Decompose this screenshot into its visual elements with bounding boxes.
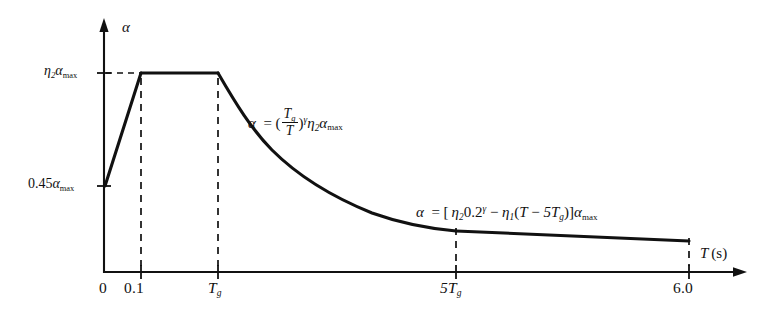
formula1-equals: =: [260, 115, 276, 131]
formula1-open-paren: (: [276, 115, 281, 131]
x-tick-label-6-0: 6.0: [673, 280, 693, 296]
x-tick-label-tg: Tg: [208, 280, 222, 296]
formula2-minus: −: [486, 204, 502, 220]
formula1-exponent-gamma: γ: [304, 115, 308, 125]
response-spectrum-figure: α η2αmax 0.45αmax 0 0.1 Tg 5Tg 6.0 T (s)…: [0, 0, 768, 324]
alpha-max-subscript: max: [63, 71, 77, 80]
annotation-formula-power-decay: α = (TgT)γη2αmax: [248, 108, 343, 141]
formula1-numerator: Tg: [282, 106, 298, 123]
x-axis-unit: (s): [708, 245, 727, 261]
formula2-alpha: α: [416, 204, 424, 220]
five-prefix: 5: [440, 279, 448, 296]
formula2-eta-1: η1: [502, 204, 514, 220]
formula2-exponent-gamma: γ: [482, 204, 486, 214]
formula2-period-T: T: [519, 204, 527, 220]
y-tick-label-plateau: η2αmax: [44, 64, 77, 78]
formula1-alpha: α: [248, 115, 256, 131]
plot-canvas: [0, 0, 768, 324]
x-tick-label-0-1: 0.1: [124, 280, 144, 296]
x-axis-label: T (s): [700, 246, 727, 261]
tg-base: T: [448, 279, 457, 296]
alpha-max-subscript: max: [60, 184, 74, 193]
tg-subscript: g: [217, 287, 222, 298]
alpha-symbol: α: [53, 176, 60, 191]
formula2-max-subscript: max: [582, 212, 598, 222]
eta-2-symbol: η2: [44, 63, 55, 78]
formula1-close-paren: ): [299, 115, 304, 131]
y-tick-label-origin: 0.45αmax: [28, 177, 74, 191]
annotation-formula-linear-decay: α = [ η20.2γ − η1(T − 5Tg)]αmax: [416, 205, 597, 220]
curve-linear-decay-segment: [456, 231, 689, 241]
alpha-symbol: α: [55, 63, 62, 78]
formula2-five-tg: 5Tg: [544, 204, 565, 220]
formula1-denominator: T: [282, 123, 298, 139]
formula1-eta-2: η2: [307, 115, 319, 131]
formula2-eta-2: η2: [452, 204, 464, 220]
formula2-equals: =: [428, 204, 444, 220]
y-axis: [99, 18, 108, 273]
formula2-constant: 0.2: [464, 204, 483, 220]
formula1-fraction: TgT: [282, 106, 298, 139]
x-axis: [104, 267, 747, 277]
formula2-inner-minus: −: [528, 204, 544, 220]
y-axis-label: α: [122, 20, 130, 35]
spectrum-curve: [105, 73, 689, 241]
tg-subscript: g: [457, 287, 462, 298]
x-tick-label-0: 0: [99, 280, 107, 296]
tg-base: T: [208, 279, 217, 296]
formula1-max-subscript: max: [327, 122, 343, 132]
formula2-alpha-max: α: [574, 204, 582, 220]
coefficient-0-45: 0.45: [28, 176, 53, 191]
formula2-open-bracket: [: [444, 204, 452, 220]
curve-rising-segment: [105, 73, 141, 186]
x-tick-label-5tg: 5Tg: [440, 280, 462, 296]
